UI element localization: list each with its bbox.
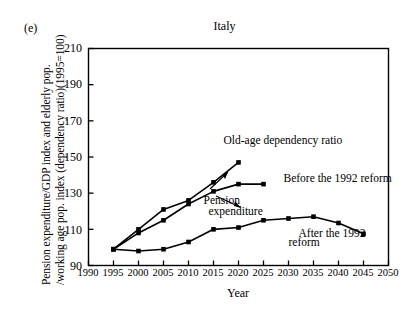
data-point [111, 247, 116, 252]
data-point [161, 218, 166, 223]
data-point [311, 214, 316, 219]
data-point [236, 182, 241, 187]
data-point [336, 221, 341, 226]
data-point [286, 216, 291, 221]
plot-canvas: Old-age dependency ratioBefore the 1992 … [0, 0, 413, 309]
data-point [261, 218, 266, 223]
data-point [186, 202, 191, 207]
data-point [211, 189, 216, 194]
data-point [236, 225, 241, 230]
annotation-label: expenditure [209, 205, 263, 218]
data-point [236, 160, 241, 165]
annotation-label: Old-age dependency ratio [224, 134, 343, 147]
annotation-label: Before the 1992 reform [284, 172, 392, 184]
data-point [161, 247, 166, 252]
data-point [161, 207, 166, 212]
annotation-labels: Old-age dependency ratioBefore the 1992 … [204, 134, 392, 247]
data-point [211, 227, 216, 232]
figure-panel: (e) Italy Pension expenditure/GDP index … [0, 0, 413, 309]
annotation-label: reform [289, 236, 320, 248]
data-point [261, 182, 266, 187]
data-point [136, 231, 141, 236]
data-point [136, 249, 141, 254]
data-point [186, 240, 191, 245]
